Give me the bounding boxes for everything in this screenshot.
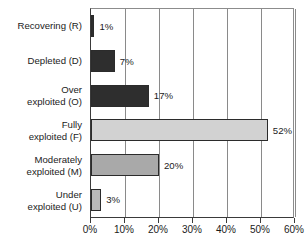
- bar-row: 20%: [91, 148, 293, 183]
- x-tick: [90, 218, 91, 223]
- x-tick: [124, 218, 125, 223]
- bar-value-under-exploited: 3%: [106, 194, 120, 205]
- x-tick: [226, 218, 227, 223]
- bar-value-fully-exploited: 52%: [273, 125, 292, 136]
- bar-value-depleted: 7%: [120, 56, 134, 67]
- category-label-depleted: Depleted (D): [0, 43, 86, 78]
- category-label-moderately-exploited: Moderately exploited (M): [0, 148, 86, 183]
- category-axis-labels: Recovering (R) Depleted (D) Over exploit…: [0, 8, 86, 218]
- bar-recovering[interactable]: [91, 15, 94, 37]
- bar-over-exploited[interactable]: [91, 85, 149, 107]
- bar-row: 3%: [91, 182, 293, 217]
- category-label-under-exploited: Under exploited (U): [0, 183, 86, 218]
- bar-series: 1% 7% 17% 52% 20% 3%: [91, 9, 293, 217]
- bar-value-over-exploited: 17%: [154, 90, 173, 101]
- plot-area: 1% 7% 17% 52% 20% 3%: [90, 8, 294, 218]
- x-tick-label: 0%: [83, 224, 97, 236]
- bar-row: 7%: [91, 44, 293, 79]
- x-tick-label: 30%: [182, 224, 202, 236]
- x-tick: [260, 218, 261, 223]
- bar-row: 52%: [91, 113, 293, 148]
- bar-fully-exploited[interactable]: [91, 119, 268, 141]
- gridline: [295, 9, 296, 217]
- bar-under-exploited[interactable]: [91, 189, 101, 211]
- x-tick-label: 50%: [250, 224, 270, 236]
- category-label-recovering: Recovering (R): [0, 8, 86, 43]
- x-tick-label: 10%: [114, 224, 134, 236]
- bar-row: 1%: [91, 9, 293, 44]
- x-tick-label: 20%: [148, 224, 168, 236]
- x-tick-label: 60%: [284, 224, 304, 236]
- x-tick: [294, 218, 295, 223]
- category-label-over-exploited: Over exploited (O): [0, 78, 86, 113]
- bar-moderately-exploited[interactable]: [91, 154, 159, 176]
- horizontal-bar-chart: Recovering (R) Depleted (D) Over exploit…: [0, 0, 305, 250]
- bar-depleted[interactable]: [91, 50, 115, 72]
- x-tick: [192, 218, 193, 223]
- bar-row: 17%: [91, 78, 293, 113]
- bar-value-moderately-exploited: 20%: [164, 160, 183, 171]
- x-axis: 0%10%20%30%40%50%60%: [90, 218, 294, 248]
- bar-value-recovering: 1%: [99, 21, 113, 32]
- x-tick: [158, 218, 159, 223]
- category-label-fully-exploited: Fully exploited (F): [0, 113, 86, 148]
- x-tick-label: 40%: [216, 224, 236, 236]
